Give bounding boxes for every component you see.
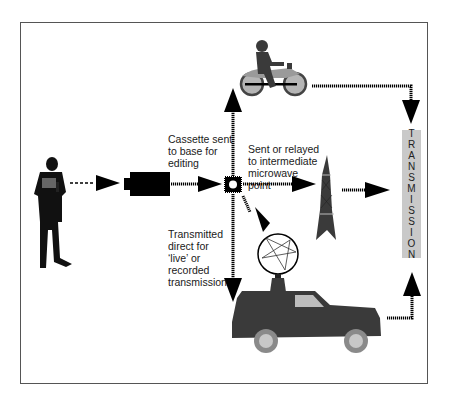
tx-letter: M bbox=[407, 183, 415, 194]
tx-letter: O bbox=[408, 238, 416, 249]
tx-letter: A bbox=[408, 150, 415, 161]
arrow-diagonal-icon bbox=[255, 207, 270, 232]
arrow-up-icon bbox=[224, 88, 242, 112]
tx-letter: S bbox=[408, 216, 415, 227]
arrow-up-icon bbox=[403, 272, 421, 296]
arrow-right-icon bbox=[198, 176, 222, 192]
truck-icon bbox=[232, 278, 381, 353]
motorbike-icon bbox=[241, 40, 306, 95]
reporter-icon bbox=[34, 157, 72, 268]
label-cassette: Cassette sent to base for editing bbox=[168, 133, 232, 169]
label-direct: Transmitted direct for ‘live’ or recorde… bbox=[168, 228, 227, 288]
tx-letter: N bbox=[408, 249, 415, 260]
tx-letter: N bbox=[408, 161, 415, 172]
camera-icon bbox=[124, 172, 170, 196]
arrow-right-icon bbox=[365, 182, 390, 198]
label-relayed: Sent or relayed to intermediate microwav… bbox=[248, 143, 319, 191]
tx-letter: S bbox=[408, 172, 415, 183]
dish-icon bbox=[258, 234, 298, 278]
diagram-canvas bbox=[0, 0, 449, 407]
arrow-right-icon bbox=[96, 175, 120, 191]
arrow-down-icon bbox=[402, 100, 420, 124]
tx-letter: I bbox=[410, 194, 413, 205]
tx-letter: R bbox=[408, 139, 415, 150]
tx-letter: I bbox=[410, 227, 413, 238]
tx-letter: S bbox=[408, 205, 415, 216]
transmission-box: T R A N S M I S S I O N bbox=[402, 130, 421, 258]
hub-icon bbox=[225, 177, 241, 192]
tx-letter: T bbox=[408, 128, 414, 139]
